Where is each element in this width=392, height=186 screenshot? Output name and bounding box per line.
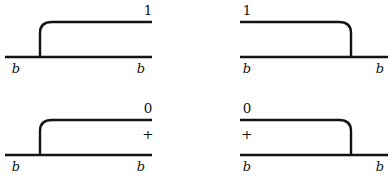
- left-boundary-label-top-right: b: [243, 62, 251, 75]
- left-boundary-label-bottom-right: b: [243, 160, 251, 173]
- left-boundary-label-bottom-left: b: [12, 160, 20, 173]
- right-boundary-label-top-right: b: [376, 62, 384, 75]
- cap-stroke: [240, 22, 351, 57]
- right-boundary-label-top-left: b: [137, 62, 145, 75]
- cap-stroke: [240, 120, 351, 155]
- top-label-top-right: 1: [243, 4, 252, 18]
- diagram-strokes-bottom-left: [0, 93, 196, 186]
- right-boundary-label-bottom-right: b: [376, 160, 384, 173]
- diagram-panel-top-right: 1 b b: [196, 0, 392, 93]
- gap-label-bottom-left: +: [142, 128, 153, 142]
- diagram-panel-bottom-right: 0 + b b: [196, 93, 392, 186]
- diagram-panel-top-left: 1 b b: [0, 0, 196, 93]
- diagram-strokes-top-right: [196, 0, 392, 93]
- right-boundary-label-bottom-left: b: [137, 160, 145, 173]
- diagram-strokes-bottom-right: [196, 93, 392, 186]
- top-label-bottom-right: 0: [243, 102, 252, 116]
- figure-grid: 1 b b 1 b b 0 + b b 0 + b b: [0, 0, 392, 186]
- top-label-top-left: 1: [144, 4, 153, 18]
- diagram-strokes-top-left: [0, 0, 196, 93]
- cap-stroke: [40, 22, 152, 57]
- top-label-bottom-left: 0: [144, 102, 153, 116]
- left-boundary-label-top-left: b: [12, 62, 20, 75]
- cap-stroke: [40, 120, 152, 155]
- gap-label-bottom-right: +: [241, 128, 252, 142]
- diagram-panel-bottom-left: 0 + b b: [0, 93, 196, 186]
